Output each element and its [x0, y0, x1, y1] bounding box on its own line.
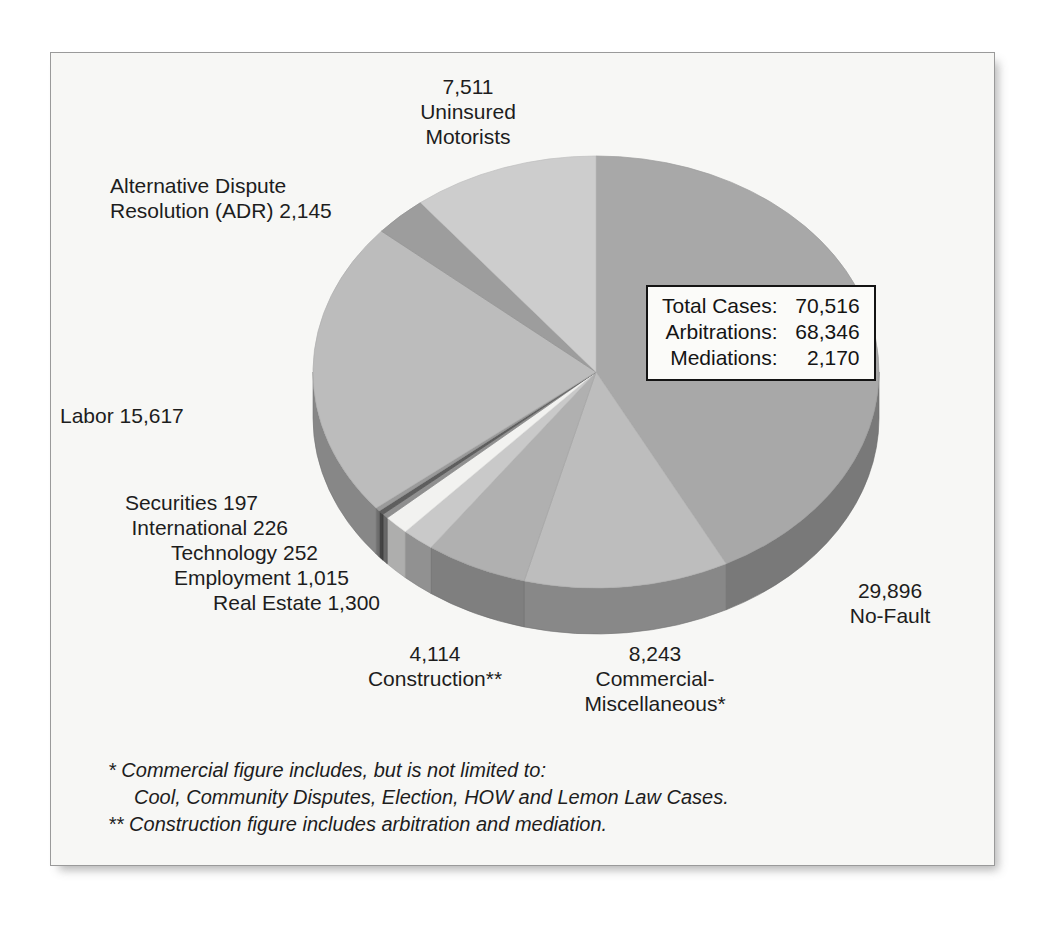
- slice-label-international: International 226: [70, 515, 380, 540]
- slice-label-employment: Employment 1,015: [70, 565, 380, 590]
- footnote-construction: ** Construction figure includes arbitrat…: [108, 811, 868, 838]
- stat-key-arbitrations: Arbitrations:: [666, 319, 778, 345]
- slice-label-construction: 4,114 Construction**: [330, 641, 540, 691]
- stat-key-mediations: Mediations:: [670, 345, 777, 371]
- stat-row-mediations: Mediations: 2,170: [662, 345, 860, 371]
- stat-row-total-cases: Total Cases: 70,516: [662, 293, 860, 319]
- slice-label-no-fault: 29,896 No-Fault: [800, 578, 980, 628]
- summary-stats-box: Total Cases: 70,516 Arbitrations: 68,346…: [646, 285, 876, 381]
- pie-chart-figure: 7,511 Uninsured Motorists Alternative Di…: [0, 0, 1043, 928]
- footnote-commercial-2: Cool, Community Disputes, Election, HOW …: [108, 784, 868, 811]
- slice-label-real-estate: Real Estate 1,300: [70, 590, 380, 615]
- stat-value-mediations: 2,170: [778, 345, 860, 371]
- stat-value-arbitrations: 68,346: [778, 319, 860, 345]
- slice-label-adr: Alternative Dispute Resolution (ADR) 2,1…: [110, 173, 385, 223]
- stat-row-arbitrations: Arbitrations: 68,346: [662, 319, 860, 345]
- stat-key-total-cases: Total Cases:: [662, 293, 778, 319]
- slice-label-commercial-miscellaneous: 8,243 Commercial- Miscellaneous*: [540, 641, 770, 716]
- small-slice-label-stack: Securities 197 International 226 Technol…: [70, 490, 380, 615]
- slice-label-securities: Securities 197: [70, 490, 380, 515]
- slice-label-labor: Labor 15,617: [60, 403, 290, 428]
- footnote-commercial-1: * Commercial figure includes, but is not…: [108, 757, 868, 784]
- slice-label-technology: Technology 252: [70, 540, 380, 565]
- slice-label-uninsured-motorists: 7,511 Uninsured Motorists: [338, 74, 598, 149]
- stat-value-total-cases: 70,516: [778, 293, 860, 319]
- footnotes-block: * Commercial figure includes, but is not…: [108, 757, 868, 838]
- pie-side-wall: [383, 514, 387, 564]
